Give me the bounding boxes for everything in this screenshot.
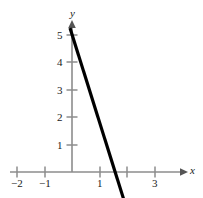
y-tick-label-3: 3	[57, 85, 63, 96]
plot-canvas	[0, 0, 203, 198]
x-tick-label-1: 1	[97, 178, 103, 189]
y-axis-label: y	[70, 8, 75, 19]
graph-figure: −2 −1 1 3 1 2 3 4 5 x y	[0, 0, 203, 198]
y-tick-label-5: 5	[57, 30, 63, 41]
y-tick-label-4: 4	[57, 57, 63, 68]
x-tick-label--2: −2	[11, 178, 23, 189]
y-tick-label-1: 1	[57, 140, 63, 151]
x-tick-label--1: −1	[39, 178, 51, 189]
x-axis-arrowhead	[180, 168, 188, 176]
x-axis-label: x	[190, 165, 195, 176]
y-tick-label-2: 2	[57, 112, 63, 123]
y-axis-arrowhead	[68, 20, 76, 28]
x-tick-label-3: 3	[152, 178, 158, 189]
